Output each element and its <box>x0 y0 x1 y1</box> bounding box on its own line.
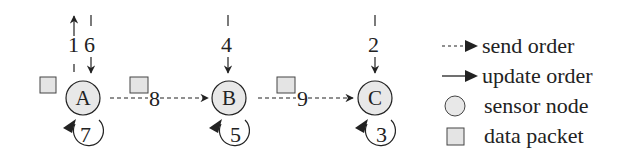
legend: send order update order sensor node data… <box>442 33 593 148</box>
legend-label-sensor-node: sensor node <box>484 93 588 118</box>
legend-update-order: update order <box>442 63 593 88</box>
node-b-group: 4 B 5 <box>209 15 249 147</box>
order-label-6: 6 <box>84 32 95 57</box>
node-c-group: 2 C 3 <box>355 15 395 147</box>
send-arrow-b-c-group: 9 <box>258 77 353 111</box>
legend-sensor-node: sensor node <box>445 93 588 118</box>
legend-label-send-order: send order <box>482 33 575 58</box>
node-label-b: B <box>222 86 236 110</box>
node-label-c: C <box>368 86 382 110</box>
node-a-group: 1 6 A 7 <box>40 15 103 147</box>
node-label-a: A <box>75 86 91 110</box>
order-label-9: 9 <box>297 86 308 111</box>
data-packet-b-c <box>277 77 295 93</box>
order-label-5: 5 <box>230 122 241 147</box>
legend-data-packet: data packet <box>447 123 584 148</box>
send-arrow-a-b-group: 8 <box>110 77 208 111</box>
legend-send-order: send order <box>442 33 575 58</box>
dashed-arrow-head-icon <box>465 40 478 52</box>
legend-label-data-packet: data packet <box>484 123 584 148</box>
circle-icon <box>445 96 465 116</box>
order-label-4: 4 <box>221 32 232 57</box>
solid-arrow-head-icon <box>465 70 478 82</box>
order-label-7: 7 <box>80 122 91 147</box>
order-label-1: 1 <box>68 32 79 57</box>
data-packet-a <box>40 77 56 93</box>
order-label-3: 3 <box>376 122 387 147</box>
order-label-2: 2 <box>368 32 379 57</box>
order-label-8: 8 <box>149 86 160 111</box>
data-packet-a-b <box>130 77 148 93</box>
square-icon <box>447 128 464 145</box>
legend-label-update-order: update order <box>482 63 593 88</box>
diagram-canvas: 1 6 A 7 8 4 B 5 9 <box>0 0 641 165</box>
